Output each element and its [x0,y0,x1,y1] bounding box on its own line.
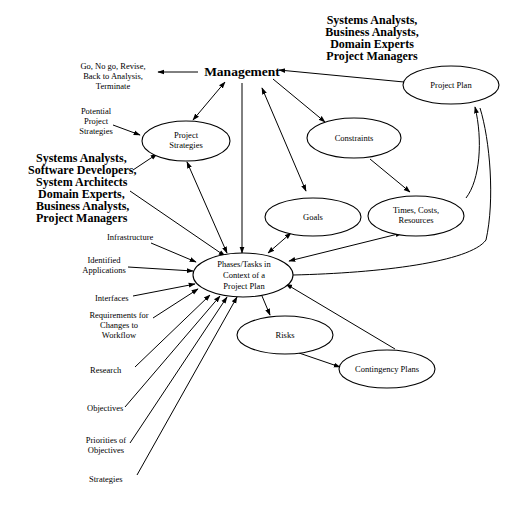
edge-potential-to-project-strategies [113,125,140,135]
node-management[interactable]: Management [204,64,280,79]
label-line: Identified [87,255,121,265]
node-label: Context of a [223,270,265,280]
label-line: Project Managers [36,211,128,225]
node-label: Times, Costs, [393,205,439,215]
edge-infrastructure-to-phases [151,243,196,262]
label-interfaces: Interfaces [95,293,129,303]
label-requirements: Requirements for Changes to Workflow [89,310,148,340]
edge-project-plan-to-management [279,70,404,82]
node-label: Constraints [335,133,374,143]
node-project-plan[interactable]: Project Plan [403,66,499,104]
label-objectives: Objectives [87,403,123,413]
label-roles-left: Systems Analysts, Software Developers, S… [28,151,136,225]
node-contingency-plans[interactable]: Contingency Plans [339,350,435,388]
label-line: Go, No go, Revise, [80,61,145,71]
label-priorities: Priorities of Objectives [86,435,127,455]
label-decisions: Go, No go, Revise, Back to Analysis, Ter… [80,61,145,91]
edge-strategies-to-phases [137,297,237,475]
project-planning-diagram: Project Strategies Constraints Goals Tim… [0,0,521,507]
label-potential-strategies: Potential Project Strategies [79,106,113,136]
edge-interfaces-to-phases [133,284,195,296]
label-roles-top: Systems Analysts, Business Analysts, Dom… [325,13,418,63]
label-line: Back to Analysis, [83,71,143,81]
node-label: Project [174,130,199,140]
edge-applications-to-phases [128,267,193,271]
node-label: Project Plan [223,281,265,291]
edge-project-strategies-phases [187,162,227,253]
label-line: Objectives [88,445,124,455]
edge-phases-to-risks [262,296,270,315]
node-label: Contingency Plans [355,364,419,374]
node-label: Risks [276,330,295,340]
label-line: Project [84,116,109,126]
label-infrastructure: Infrastructure [107,232,153,242]
edge-roles-to-project-strategies [133,154,157,170]
node-label: Strategies [169,140,203,150]
edge-constraints-to-times [370,159,410,192]
label-identified-applications: Identified Applications [82,255,125,275]
node-label: Project Plan [430,80,472,90]
label-line: Priorities of [86,435,127,445]
edge-goals-phases [268,233,291,253]
node-label: Resources [399,215,434,225]
edge-management-project-strategies [193,82,225,120]
label-strategies: Strategies [89,474,123,484]
label-line: Potential [81,106,112,116]
edge-times-phases [289,233,402,261]
edge-management-goals [262,88,306,191]
label-line: Changes to [100,320,138,330]
edge-management-to-constraints [273,79,325,122]
edge-roles-to-phases [130,191,225,256]
node-label: Phases/Tasks in [217,259,271,269]
node-label: Goals [303,212,323,222]
node-times-costs-resources[interactable]: Times, Costs, Resources [368,196,464,236]
label-line: Requirements for [89,310,148,320]
edge-times-to-project-plan [466,107,479,198]
node-phases-tasks[interactable]: Phases/Tasks in Context of a Project Pla… [193,253,293,297]
node-constraints[interactable]: Constraints [307,118,401,158]
label-line: Terminate [96,81,131,91]
node-project-strategies[interactable]: Project Strategies [142,121,230,161]
label-line: Project Managers [326,49,418,63]
label-line: Workflow [102,330,137,340]
node-goals[interactable]: Goals [265,198,361,236]
label-line: Applications [82,265,125,275]
node-risks[interactable]: Risks [237,316,333,354]
label-research: Research [90,365,122,375]
label-line: Strategies [79,126,113,136]
edge-risks-to-contingency [299,353,340,367]
